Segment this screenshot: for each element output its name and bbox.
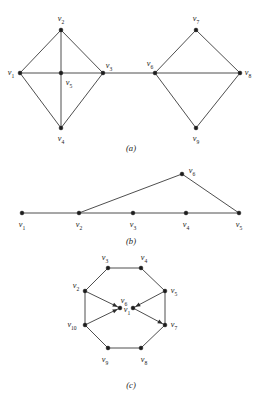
vertex-b-v5 — [237, 211, 241, 215]
vertex-a-v5 — [59, 71, 63, 75]
vertex-label-b-v5: v5 — [236, 220, 243, 231]
edge-c-v7-v8 — [141, 325, 165, 348]
vertex-c-v4 — [139, 266, 143, 270]
figure-container: v1v2v3v4v5v6v7v8v9v1v2v3v4v5v6v3v4v2v5v1… — [0, 0, 263, 403]
vertex-c-v1 — [118, 306, 122, 310]
edge-a-v2-v3 — [61, 30, 103, 73]
vertex-label-a-v3: v3 — [106, 61, 113, 72]
vertex-label-c-v6: v6 — [121, 296, 128, 307]
vertex-label-c-v10: v10 — [67, 320, 76, 331]
vertex-a-v9 — [194, 126, 198, 130]
edge-c-v4-v5 — [141, 268, 165, 291]
vertex-label-a-v2: v2 — [58, 14, 65, 25]
vertices-layer — [18, 28, 242, 350]
edge-a-v7-v8 — [196, 30, 240, 73]
vertex-label-c-v3: v3 — [102, 253, 109, 264]
caption-b: (b) — [126, 236, 136, 246]
vertex-c-v5 — [163, 289, 167, 293]
edge-a-v8-v9 — [196, 73, 240, 128]
caption-c: (c) — [126, 380, 136, 390]
vertex-label-b-v2: v2 — [76, 220, 83, 231]
vertex-label-b-v6: v6 — [189, 166, 196, 177]
vertex-b-v1 — [20, 211, 24, 215]
vertex-a-v6 — [153, 71, 157, 75]
vertex-label-c-v5: v5 — [171, 286, 178, 297]
vertex-a-v1 — [18, 71, 22, 75]
vertex-c-v7 — [163, 323, 167, 327]
vertex-label-c-v4: v4 — [141, 253, 148, 264]
vertex-b-v6 — [180, 172, 184, 176]
vertex-label-a-v5: v5 — [66, 78, 73, 89]
vertex-labels-layer: v1v2v3v4v5v6v7v8v9v1v2v3v4v5v6v3v4v2v5v1… — [8, 14, 252, 366]
vertex-label-b-v3: v3 — [130, 220, 137, 231]
vertex-c-v3 — [106, 266, 110, 270]
vertex-label-a-v6: v6 — [147, 59, 154, 70]
edge-a-v1-v4 — [20, 73, 61, 128]
vertex-label-c-v7: v7 — [171, 320, 178, 331]
vertex-c-v9 — [106, 346, 110, 350]
edge-a-v6-v9 — [155, 73, 196, 128]
edge-a-v6-v7 — [155, 30, 196, 73]
edge-c-v2-v3 — [85, 268, 108, 291]
vertex-label-c-v8: v8 — [141, 355, 148, 366]
vertex-b-v3 — [131, 211, 135, 215]
captions-layer: (a) (b) (c) — [126, 143, 136, 390]
vertex-label-a-v9: v9 — [193, 134, 200, 145]
vertex-label-a-v8: v8 — [245, 68, 252, 79]
vertex-a-v8 — [238, 71, 242, 75]
vertex-b-v4 — [184, 211, 188, 215]
vertex-c-v8 — [139, 346, 143, 350]
vertex-label-a-v4: v4 — [58, 134, 65, 145]
vertex-c-v6 — [131, 306, 135, 310]
vertex-a-v3 — [101, 71, 105, 75]
edge-a-v1-v2 — [20, 30, 61, 73]
graph-figure-svg: v1v2v3v4v5v6v7v8v9v1v2v3v4v5v6v3v4v2v5v1… — [0, 0, 263, 403]
vertex-a-v4 — [59, 126, 63, 130]
vertex-b-v2 — [77, 211, 81, 215]
vertex-c-v2 — [83, 289, 87, 293]
caption-a: (a) — [126, 143, 136, 153]
vertex-a-v7 — [194, 28, 198, 32]
vertex-label-c-v2: v2 — [73, 281, 80, 292]
edges-layer — [20, 30, 240, 348]
arrowheads-layer — [112, 303, 162, 324]
vertex-label-a-v1: v1 — [8, 68, 15, 79]
vertex-label-c-v9: v9 — [102, 355, 109, 366]
vertex-c-v10 — [83, 323, 87, 327]
vertex-label-a-v7: v7 — [193, 14, 200, 25]
vertex-a-v2 — [59, 28, 63, 32]
vertex-label-b-v1: v1 — [19, 220, 26, 231]
edge-b-v2-v6 — [79, 174, 182, 213]
vertex-label-b-v4: v4 — [183, 220, 190, 231]
edge-b-v6-v5 — [182, 174, 239, 213]
edge-c-v9-v10 — [85, 325, 108, 348]
